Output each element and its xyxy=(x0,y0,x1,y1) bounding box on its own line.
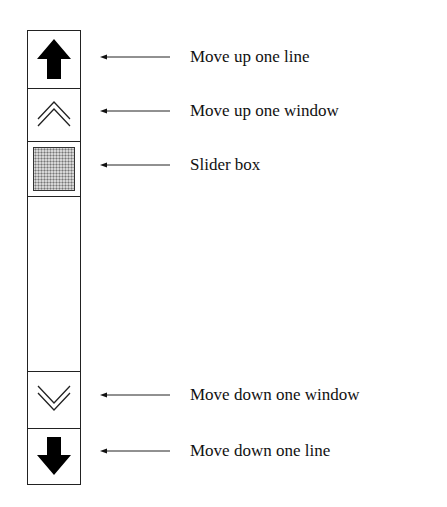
vertical-scrollbar[interactable] xyxy=(27,30,81,485)
slider-thumb[interactable] xyxy=(33,147,75,191)
left-pointer-arrow-icon xyxy=(100,160,170,170)
left-pointer-arrow-icon xyxy=(100,52,170,62)
callout-label: Move up one window xyxy=(190,101,339,121)
callout-label: Slider box xyxy=(190,155,260,175)
callout-move-down-one-line: Move down one line xyxy=(100,441,330,461)
solid-down-arrow-icon xyxy=(28,429,80,483)
solid-up-arrow-icon xyxy=(28,31,80,88)
window-up-button[interactable] xyxy=(28,89,80,142)
callout-move-up-one-window: Move up one window xyxy=(100,101,339,121)
callout-label: Move down one window xyxy=(190,385,360,405)
slider-box[interactable] xyxy=(28,142,80,197)
scroll-track[interactable] xyxy=(28,197,80,372)
double-chevron-down-icon xyxy=(28,372,80,428)
callout-move-up-one-line: Move up one line xyxy=(100,47,309,67)
left-pointer-arrow-icon xyxy=(100,446,170,456)
left-pointer-arrow-icon xyxy=(100,390,170,400)
callout-label: Move up one line xyxy=(190,47,309,67)
window-down-button[interactable] xyxy=(28,372,80,429)
double-chevron-up-icon xyxy=(28,89,80,141)
callout-move-down-one-window: Move down one window xyxy=(100,385,360,405)
left-pointer-arrow-icon xyxy=(100,106,170,116)
callout-slider-box: Slider box xyxy=(100,155,260,175)
line-down-button[interactable] xyxy=(28,429,80,483)
line-up-button[interactable] xyxy=(28,31,80,89)
callout-label: Move down one line xyxy=(190,441,330,461)
